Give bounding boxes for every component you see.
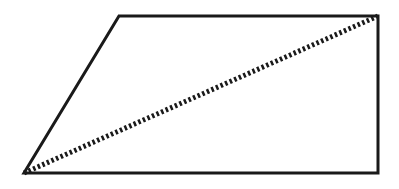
trapezoid-diagram [0,0,399,189]
dotted-diagonal-line [24,16,378,173]
